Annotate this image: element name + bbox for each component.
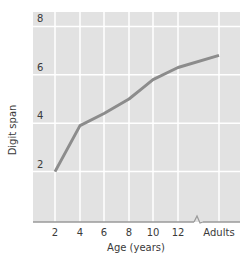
y-tick-label: 4	[37, 110, 43, 121]
x-tick-label: 12	[172, 227, 185, 238]
y-axis-label: Digit span	[7, 105, 18, 156]
y-tick-label: 6	[37, 62, 43, 73]
x-tick-label: 10	[147, 227, 160, 238]
y-tick-label: 8	[37, 13, 43, 24]
x-tick-label: 2	[52, 227, 58, 238]
x-tick-label: 6	[101, 227, 107, 238]
plot-background	[33, 12, 240, 222]
x-axis-label: Age (years)	[107, 242, 165, 253]
y-tick-label: 2	[37, 159, 43, 170]
plot-area	[33, 12, 240, 223]
x-tick-label: 8	[126, 227, 132, 238]
x-tick-label: 4	[77, 227, 83, 238]
x-axis-ticks: 24681012Adults	[52, 227, 235, 238]
digit-span-chart: 2468 24681012Adults Age (years) Digit sp…	[0, 0, 249, 258]
x-tick-label: Adults	[203, 227, 234, 238]
